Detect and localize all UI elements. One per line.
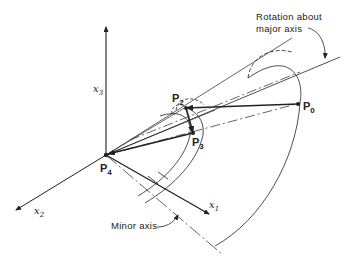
x2-axis <box>16 155 106 210</box>
rotation-diagram <box>0 0 351 263</box>
label-p2: P2 <box>172 93 184 107</box>
minor-axis-line <box>106 155 223 255</box>
label-p0: P0 <box>303 101 315 115</box>
inner-arc-1 <box>145 107 203 203</box>
coordinate-axes <box>16 27 209 214</box>
rotation-curves <box>138 50 301 246</box>
label-p4: P4 <box>100 163 112 177</box>
rotation-axis-dashdot <box>130 72 300 140</box>
ray-to-p2 <box>106 107 186 155</box>
point-p3 <box>191 131 195 135</box>
rotation-annotation-line1: Rotation about <box>256 12 322 22</box>
x1-axis <box>106 155 209 214</box>
label-x2: x2 <box>34 206 44 219</box>
segment-p2-p3 <box>186 108 193 133</box>
rotation-leader <box>308 28 325 58</box>
large-outer-arc <box>215 66 301 246</box>
label-p3: P3 <box>192 137 204 151</box>
minor-axis-annotation: Minor axis <box>111 221 157 231</box>
rotation-annotation-line2: major axis <box>256 24 302 34</box>
minor-axis-leader <box>157 215 178 227</box>
inner-arc-2 <box>138 114 190 196</box>
segment-p0-p2 <box>186 104 298 108</box>
label-x1: x1 <box>209 200 219 213</box>
point-p4 <box>104 153 108 157</box>
annotation-leaders <box>157 28 325 227</box>
label-x3: x3 <box>93 84 103 97</box>
point-p0 <box>296 102 300 106</box>
point-p2 <box>184 106 188 110</box>
